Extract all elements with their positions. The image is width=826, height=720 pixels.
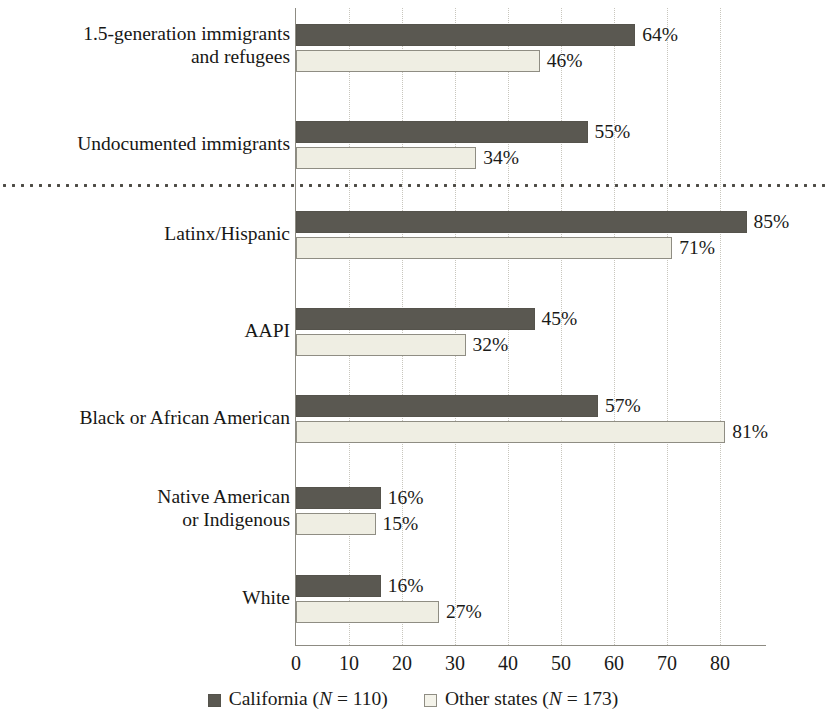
- bar-group-other-states: 27%: [296, 601, 439, 623]
- bar: [296, 237, 672, 259]
- group-separator-dotted-line: [0, 184, 826, 187]
- bar-value-label: 57%: [605, 395, 641, 417]
- bar: [296, 421, 725, 443]
- bar: [296, 50, 540, 72]
- x-tick-label-50: 50: [551, 652, 571, 675]
- bar-group-other-states: 46%: [296, 50, 540, 72]
- bar: [296, 121, 588, 143]
- bar: [296, 308, 535, 330]
- category-row: 1.5-generation immigrants and refugees64…: [0, 24, 826, 72]
- x-tick-label-10: 10: [339, 652, 359, 675]
- bar: [296, 211, 747, 233]
- bar-value-label: 71%: [679, 237, 715, 259]
- x-tick-label-60: 60: [604, 652, 624, 675]
- category-label: Native American or Indigenous: [10, 485, 290, 531]
- x-tick-label-40: 40: [498, 652, 518, 675]
- x-tick-label-80: 80: [710, 652, 730, 675]
- bar-value-label: 46%: [547, 50, 583, 72]
- x-axis-line: [295, 645, 766, 646]
- category-row: White16%27%: [0, 575, 826, 623]
- bar-value-label: 16%: [388, 575, 424, 597]
- bar-value-label: 45%: [542, 308, 578, 330]
- legend-label: Other states (N = 173): [445, 688, 618, 710]
- bar-group-california: 85%: [296, 211, 747, 233]
- bar: [296, 575, 381, 597]
- bar-value-label: 81%: [732, 421, 768, 443]
- bar-value-label: 15%: [383, 513, 419, 535]
- bar-value-label: 16%: [388, 487, 424, 509]
- legend-item-california[interactable]: California (N = 110): [208, 688, 388, 710]
- legend-label: California (N = 110): [229, 688, 388, 710]
- bar-group-other-states: 71%: [296, 237, 672, 259]
- x-tick-label-30: 30: [445, 652, 465, 675]
- category-label: Latinx/Hispanic: [10, 222, 290, 245]
- bar-group-california: 57%: [296, 395, 598, 417]
- bar-group-california: 64%: [296, 24, 635, 46]
- bar-value-label: 64%: [642, 24, 678, 46]
- bar-value-label: 27%: [446, 601, 482, 623]
- bar-value-label: 55%: [595, 121, 631, 143]
- category-row: Undocumented immigrants55%34%: [0, 121, 826, 169]
- bar-value-label: 34%: [483, 147, 519, 169]
- category-row: Latinx/Hispanic85%71%: [0, 211, 826, 259]
- bar-group-other-states: 81%: [296, 421, 725, 443]
- bar: [296, 147, 476, 169]
- bar-group-california: 16%: [296, 487, 381, 509]
- bar-group-california: 16%: [296, 575, 381, 597]
- legend-swatch-icon: [424, 694, 437, 707]
- legend-item-other-states[interactable]: Other states (N = 173): [424, 688, 618, 710]
- category-row: Black or African American57%81%: [0, 395, 826, 443]
- bar: [296, 513, 376, 535]
- category-label: AAPI: [10, 319, 290, 342]
- bar-group-other-states: 15%: [296, 513, 376, 535]
- grouped-bar-chart: 1.5-generation immigrants and refugees64…: [0, 0, 826, 720]
- x-tick-label-0: 0: [291, 652, 301, 675]
- x-tick-label-70: 70: [657, 652, 677, 675]
- category-label: 1.5-generation immigrants and refugees: [10, 22, 290, 68]
- bar: [296, 395, 598, 417]
- bar: [296, 24, 635, 46]
- bar-group-other-states: 34%: [296, 147, 476, 169]
- bar-value-label: 32%: [473, 334, 509, 356]
- legend-swatch-icon: [208, 694, 221, 707]
- bar-group-other-states: 32%: [296, 334, 466, 356]
- bar-group-california: 55%: [296, 121, 588, 143]
- category-row: AAPI45%32%: [0, 308, 826, 356]
- bar-value-label: 85%: [754, 211, 790, 233]
- category-row: Native American or Indigenous16%15%: [0, 487, 826, 535]
- x-axis-tick-labels: 01020304050607080: [0, 652, 826, 682]
- x-tick-label-20: 20: [392, 652, 412, 675]
- bar-group-california: 45%: [296, 308, 535, 330]
- category-label: White: [10, 586, 290, 609]
- bar: [296, 601, 439, 623]
- category-label: Undocumented immigrants: [10, 132, 290, 155]
- category-label: Black or African American: [10, 406, 290, 429]
- bar: [296, 487, 381, 509]
- chart-legend: California (N = 110)Other states (N = 17…: [0, 688, 826, 710]
- bar: [296, 334, 466, 356]
